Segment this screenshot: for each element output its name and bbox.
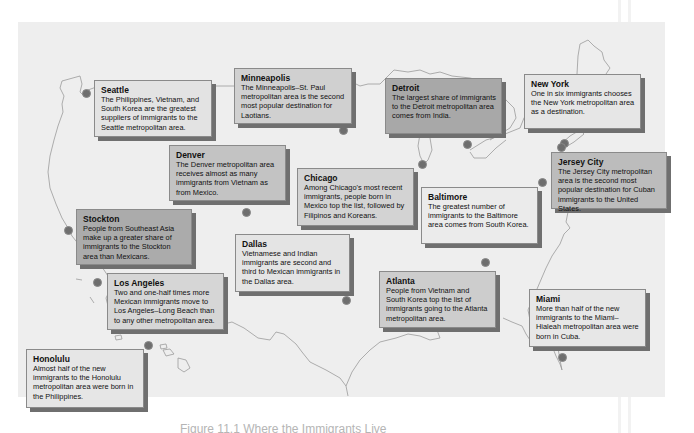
callout-text: The Denver metropolitan area receives al… [176,160,280,197]
callout-title: New York [531,79,635,89]
callout-jersey-city: Jersey City The Jersey City metropolitan… [551,152,667,209]
callout-chicago: Chicago Among Chicago's most recent immi… [297,168,414,226]
callout-baltimore: Baltimore The greatest number of immigra… [421,187,538,244]
callout-title: Atlanta [386,276,490,286]
callout-title: Jersey City [558,157,661,167]
callout-text: More than half of the new immigrants to … [536,304,640,341]
callout-title: Denver [176,150,280,160]
gulf-coast-outline [346,330,440,396]
map-marker-stockton[interactable] [64,226,73,235]
map-marker-baltimore[interactable] [538,178,547,187]
callout-title: Detroit [392,83,496,93]
map-marker-miami[interactable] [558,353,567,362]
map-marker-honolulu[interactable] [144,341,153,350]
callout-text: Among Chicago's most recent immigrants, … [304,183,408,220]
callout-new-york: New York One in six immigrants chooses t… [524,74,641,129]
callout-text: One in six immigrants chooses the New Yo… [531,89,635,117]
map-marker-dallas[interactable] [342,296,351,305]
southern-border-outline [224,322,346,386]
callout-text: Vietnamese and Indian immigrants are sec… [242,249,344,286]
map-marker-denver[interactable] [242,208,251,217]
callout-seattle: Seattle The Philippines, Vietnam, and So… [94,80,212,137]
callout-title: Dallas [242,239,344,249]
callout-atlanta: Atlanta People from Vietnam and South Ko… [379,271,496,328]
map-marker-seattle[interactable] [82,89,91,98]
callout-text: Two and one-half times more Mexican immi… [114,288,218,325]
callout-text: The Minneapolis–St. Paul metropolitan ar… [241,83,346,120]
callout-miami: Miami More than half of the new immigran… [529,289,646,347]
callout-text: People from Southeast Asia make up a gre… [83,224,186,261]
figure-caption: Figure 11.1 Where the Immigrants Live [180,420,480,433]
callout-text: Almost half of the new immigrants to the… [33,364,138,401]
lake-outline [470,140,506,158]
callout-title: Minneapolis [241,73,346,83]
callout-title: Miami [536,294,640,304]
callout-minneapolis: Minneapolis The Minneapolis–St. Paul met… [234,68,352,124]
callout-title: Chicago [304,173,408,183]
callout-stockton: Stockton People from Southeast Asia make… [76,209,192,265]
callout-dallas: Dallas Vietnamese and Indian immigrants … [235,234,350,292]
map-marker-jersey-city[interactable] [557,143,566,152]
callout-title: Seattle [101,85,206,95]
callout-text: The Jersey City metropolitan area is the… [558,167,661,213]
callout-title: Baltimore [428,192,532,202]
channel-islands-outline [76,279,94,303]
new-england-outline [577,40,610,74]
callout-title: Honolulu [33,354,138,364]
map-marker-minneapolis[interactable] [339,126,348,135]
callout-detroit: Detroit The largest share of immigrants … [385,78,502,134]
callout-text: The Philippines, Vietnam, and South Kore… [101,95,206,132]
callout-honolulu: Honolulu Almost half of the new immigran… [26,349,144,408]
callout-text: The largest share of immigrants to the D… [392,93,496,121]
callout-denver: Denver The Denver metropolitan area rece… [169,145,286,201]
callout-title: Stockton [83,214,186,224]
callout-text: People from Vietnam and South Korea top … [386,286,490,323]
map-marker-los-angeles[interactable] [93,278,102,287]
callout-text: The greatest number of immigrants to the… [428,202,532,230]
map-marker-chicago[interactable] [418,160,427,169]
callout-los-angeles: Los Angeles Two and one-half times more … [107,273,224,330]
map-marker-detroit[interactable] [463,140,472,149]
map-marker-atlanta[interactable] [481,258,490,267]
callout-title: Los Angeles [114,278,218,288]
